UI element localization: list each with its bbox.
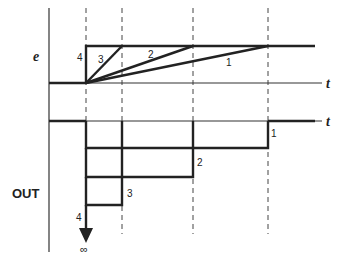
input-curve-label-4: 4 — [77, 52, 83, 63]
input-label: e — [33, 49, 39, 64]
output-label-3: 3 — [127, 188, 133, 199]
output-pulse-1 — [86, 121, 268, 148]
output-label-4: 4 — [76, 212, 82, 223]
output-pulse-3 — [86, 121, 122, 205]
input-curve-label-1: 1 — [226, 57, 232, 68]
output-label-1: 1 — [271, 128, 277, 139]
bottom-time-axis-label: t — [326, 114, 331, 129]
input-curve-label-2: 2 — [148, 49, 154, 60]
infinity-symbol: ∞ — [80, 243, 88, 255]
input-curve-4 — [86, 46, 315, 83]
input-curve-label-3: 3 — [98, 54, 104, 65]
output-label-2: 2 — [197, 157, 203, 168]
output-label: OUT — [12, 186, 40, 201]
arrow-down-icon — [79, 228, 93, 243]
top-time-axis-label: t — [326, 76, 331, 91]
differentiator-response-diagram: t e 4 3 2 1 t OUT 1 2 3 4 ∞ — [0, 0, 350, 269]
